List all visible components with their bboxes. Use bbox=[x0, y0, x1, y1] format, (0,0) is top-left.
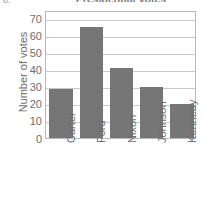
x-tick-label: Kennedy bbox=[186, 85, 198, 143]
y-tick-label: 30 bbox=[20, 82, 42, 93]
y-tick-label: 70 bbox=[20, 14, 42, 25]
x-tick-label: Nixon bbox=[126, 85, 138, 143]
gridline bbox=[46, 20, 195, 21]
gridline bbox=[46, 54, 195, 55]
x-tick-label: Carter bbox=[65, 85, 77, 143]
x-tick-label: Ford bbox=[95, 85, 107, 143]
y-tick-label: 10 bbox=[20, 116, 42, 127]
y-tick-label: 50 bbox=[20, 48, 42, 59]
item-number-marker: 8. bbox=[3, 0, 11, 4]
y-tick-label: 0 bbox=[20, 134, 42, 145]
y-tick-label: 20 bbox=[20, 99, 42, 110]
gridline bbox=[46, 37, 195, 38]
bar-chart-figure: 8. Presidential Votes Number of votes 01… bbox=[0, 0, 204, 202]
y-tick-label: 60 bbox=[20, 31, 42, 42]
chart-title: Presidential Votes bbox=[45, 0, 197, 2]
y-tick-label: 40 bbox=[20, 65, 42, 76]
x-tick-label: Johnson bbox=[156, 85, 168, 143]
